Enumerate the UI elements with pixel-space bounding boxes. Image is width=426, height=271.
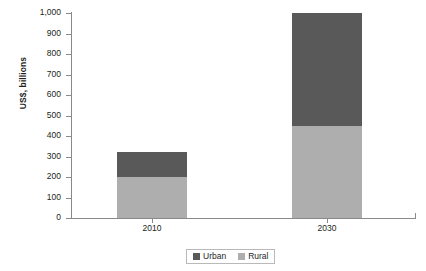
bar-segment-urban-2010[interactable]	[117, 152, 187, 177]
y-tick-label: 700	[47, 69, 61, 79]
y-tick-label: 600	[47, 89, 61, 99]
legend-label-urban: Urban	[203, 251, 226, 261]
y-tick-mark	[66, 198, 72, 199]
bar-group-2030[interactable]	[292, 13, 362, 218]
y-axis-title: US$, billions	[18, 28, 28, 138]
y-tick-mark	[66, 95, 72, 96]
bar-segment-rural-2010[interactable]	[117, 177, 187, 218]
chart-legend: Urban Rural	[186, 249, 275, 264]
y-tick-mark	[66, 136, 72, 137]
y-tick-label: 500	[47, 110, 61, 120]
y-tick-label: 200	[47, 171, 61, 181]
x-axis-line	[71, 218, 416, 219]
y-tick-label: 900	[47, 28, 61, 38]
legend-item-rural[interactable]: Rural	[238, 251, 268, 261]
bar-segment-rural-2030[interactable]	[292, 126, 362, 218]
x-axis-label-2030: 2030	[287, 223, 367, 233]
y-tick-mark	[66, 116, 72, 117]
stacked-bar-chart: US$, billions 01002003004005006007008009…	[0, 0, 426, 271]
y-tick-label: 0	[56, 212, 61, 222]
y-tick-mark	[66, 54, 72, 55]
y-tick-mark	[66, 177, 72, 178]
y-tick-label: 800	[47, 48, 61, 58]
y-tick-mark	[66, 218, 72, 219]
legend-item-urban[interactable]: Urban	[193, 251, 226, 261]
y-tick-mark	[66, 34, 72, 35]
bar-group-2010[interactable]	[117, 13, 187, 218]
y-tick-label: 1,000	[40, 7, 61, 17]
legend-swatch-rural	[238, 253, 245, 260]
legend-label-rural: Rural	[248, 251, 268, 261]
y-tick-mark	[66, 75, 72, 76]
y-tick-mark	[66, 13, 72, 14]
y-tick-label: 400	[47, 130, 61, 140]
bar-segment-urban-2030[interactable]	[292, 13, 362, 126]
x-axis-label-2010: 2010	[112, 223, 192, 233]
y-tick-mark	[66, 157, 72, 158]
y-tick-label: 300	[47, 151, 61, 161]
legend-swatch-urban	[193, 253, 200, 260]
x-axis-end-tick	[415, 213, 416, 219]
y-tick-label: 100	[47, 192, 61, 202]
